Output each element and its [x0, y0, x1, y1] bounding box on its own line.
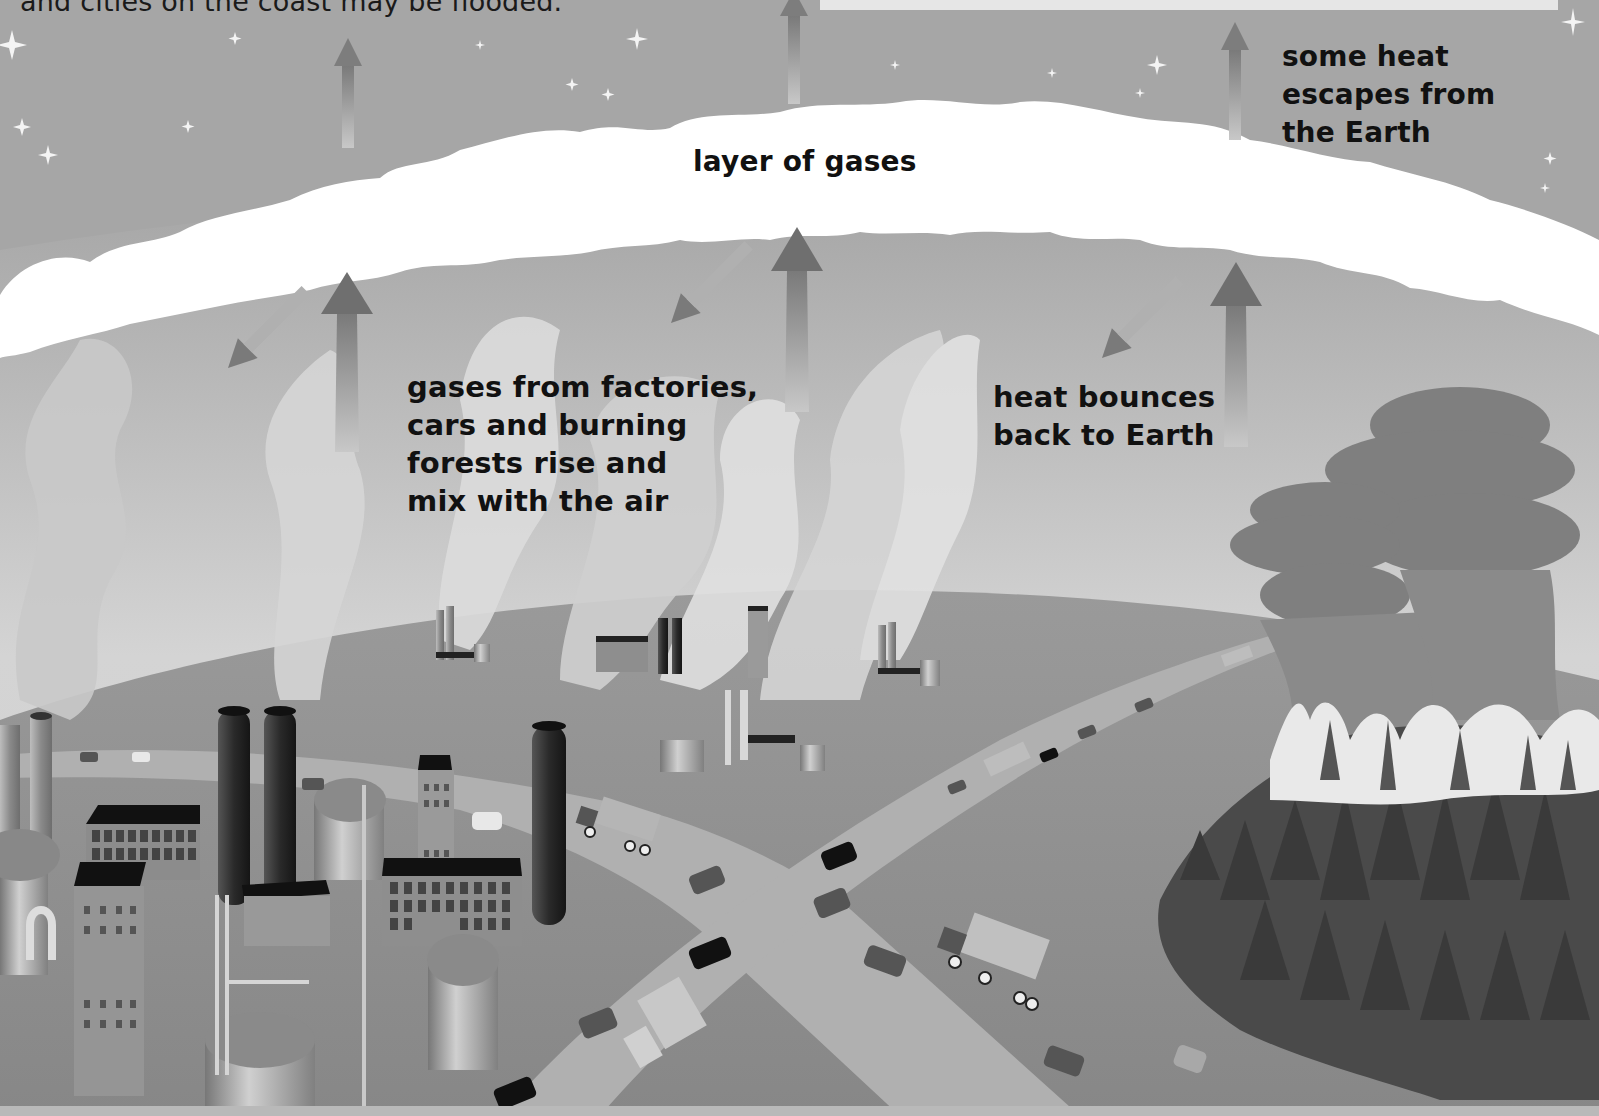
top-caption: and cities on the coast may be flooded.: [20, 0, 562, 17]
label-line: cars and burning: [407, 406, 758, 444]
label-line: heat bounces: [993, 378, 1215, 416]
label-line: mix with the air: [407, 482, 758, 520]
label-heat-bounces: heat bounces back to Earth: [993, 378, 1215, 454]
label-line: some heat: [1282, 38, 1495, 76]
label-layer-of-gases: layer of gases: [693, 145, 917, 178]
label-line: escapes from: [1282, 76, 1495, 114]
info-panel: [820, 0, 1558, 10]
label-line: the Earth: [1282, 114, 1495, 152]
label-gases-rise: gases from factories, cars and burning f…: [407, 368, 758, 520]
label-heat-escapes: some heat escapes from the Earth: [1282, 38, 1495, 152]
bottom-strip: [0, 1106, 1599, 1116]
label-line: back to Earth: [993, 416, 1215, 454]
label-line: gases from factories,: [407, 368, 758, 406]
label-line: forests rise and: [407, 444, 758, 482]
